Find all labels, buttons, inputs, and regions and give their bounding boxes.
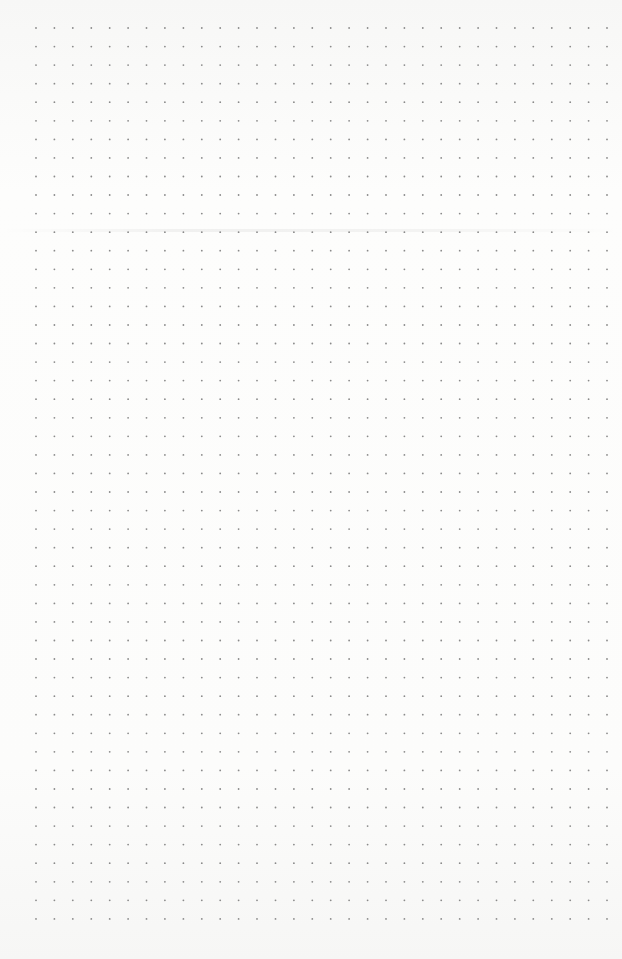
grid-dot (404, 120, 406, 122)
grid-dot (367, 473, 369, 475)
grid-dot (606, 844, 608, 846)
grid-dot (367, 157, 369, 159)
grid-dot (422, 306, 424, 308)
grid-dot (551, 343, 553, 345)
grid-dot (569, 287, 571, 289)
grid-dot (569, 213, 571, 215)
grid-dot (514, 844, 516, 846)
grid-dot (275, 139, 277, 141)
grid-dot (422, 435, 424, 437)
grid-dot (330, 361, 332, 363)
grid-dot (330, 324, 332, 326)
grid-dot (238, 380, 240, 382)
grid-dot (551, 565, 553, 567)
grid-dot (127, 565, 129, 567)
grid-dot (238, 658, 240, 660)
grid-dot (183, 287, 185, 289)
grid-dot (496, 732, 498, 734)
grid-dot (275, 83, 277, 85)
grid-dot (311, 27, 313, 29)
grid-dot (606, 380, 608, 382)
grid-dot (201, 751, 203, 753)
grid-dot (146, 398, 148, 400)
grid-dot (330, 380, 332, 382)
grid-dot (367, 788, 369, 790)
grid-dot (72, 417, 74, 419)
grid-dot (496, 844, 498, 846)
grid-dot (90, 473, 92, 475)
grid-dot (532, 825, 534, 827)
grid-dot (551, 83, 553, 85)
grid-dot (183, 862, 185, 864)
grid-dot (459, 751, 461, 753)
grid-dot (219, 807, 221, 809)
grid-dot (348, 157, 350, 159)
grid-dot (496, 287, 498, 289)
grid-dot (569, 584, 571, 586)
grid-dot (35, 343, 37, 345)
grid-dot (422, 899, 424, 901)
grid-dot (256, 732, 258, 734)
grid-dot (293, 268, 295, 270)
grid-dot (238, 621, 240, 623)
grid-dot (477, 194, 479, 196)
grid-dot (238, 862, 240, 864)
grid-dot (440, 491, 442, 493)
grid-dot (606, 46, 608, 48)
grid-dot (201, 473, 203, 475)
grid-dot (109, 324, 111, 326)
grid-dot (90, 139, 92, 141)
grid-dot (588, 825, 590, 827)
grid-dot (183, 306, 185, 308)
grid-dot (569, 473, 571, 475)
grid-dot (385, 603, 387, 605)
grid-dot (127, 343, 129, 345)
grid-dot (532, 213, 534, 215)
grid-dot (35, 825, 37, 827)
grid-dot (532, 139, 534, 141)
grid-dot (72, 565, 74, 567)
grid-dot (275, 565, 277, 567)
grid-dot (54, 250, 56, 252)
grid-dot (588, 547, 590, 549)
grid-dot (385, 176, 387, 178)
grid-dot (183, 435, 185, 437)
grid-dot (238, 101, 240, 103)
grid-dot (440, 788, 442, 790)
grid-dot (532, 324, 534, 326)
grid-dot (404, 194, 406, 196)
grid-dot (404, 398, 406, 400)
grid-dot (183, 101, 185, 103)
grid-dot (201, 157, 203, 159)
grid-dot (459, 862, 461, 864)
grid-dot (293, 918, 295, 920)
grid-dot (569, 844, 571, 846)
grid-dot (551, 380, 553, 382)
grid-dot (514, 306, 516, 308)
grid-dot (477, 584, 479, 586)
grid-dot (72, 435, 74, 437)
grid-dot (330, 343, 332, 345)
grid-dot (146, 547, 148, 549)
grid-dot (238, 213, 240, 215)
grid-dot (183, 83, 185, 85)
grid-dot (551, 324, 553, 326)
grid-dot (551, 231, 553, 233)
grid-dot (201, 231, 203, 233)
grid-dot (164, 139, 166, 141)
grid-dot (459, 435, 461, 437)
grid-dot (440, 621, 442, 623)
grid-dot (109, 176, 111, 178)
grid-dot (385, 658, 387, 660)
grid-dot (109, 918, 111, 920)
grid-dot (367, 862, 369, 864)
grid-dot (72, 361, 74, 363)
grid-dot (219, 584, 221, 586)
grid-dot (127, 287, 129, 289)
grid-dot (238, 528, 240, 530)
grid-dot (606, 695, 608, 697)
grid-dot (109, 46, 111, 48)
grid-dot (238, 120, 240, 122)
grid-dot (348, 807, 350, 809)
grid-dot (72, 788, 74, 790)
